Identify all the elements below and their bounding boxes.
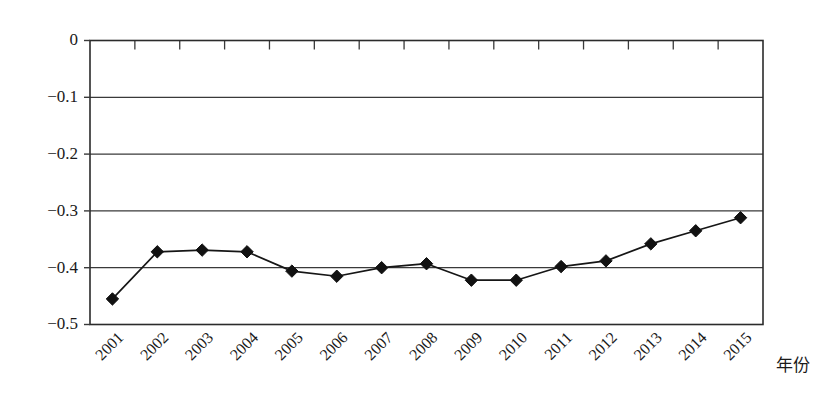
y-axis-tick-label: −0.3 — [47, 201, 78, 220]
line-chart-svg: 0−0.1−0.2−0.3−0.4−0.5 200120022003200420… — [0, 0, 839, 398]
chart-figure: 0−0.1−0.2−0.3−0.4−0.5 200120022003200420… — [0, 0, 839, 398]
x-axis-title: 年份 — [776, 356, 810, 375]
y-axis-tick-label: 0 — [70, 30, 79, 49]
y-axis-tick-label: −0.1 — [47, 87, 78, 106]
y-axis-tick-label: −0.2 — [47, 144, 78, 163]
y-axis-tick-label: −0.5 — [47, 314, 78, 333]
y-axis-tick-label: −0.4 — [47, 258, 78, 277]
